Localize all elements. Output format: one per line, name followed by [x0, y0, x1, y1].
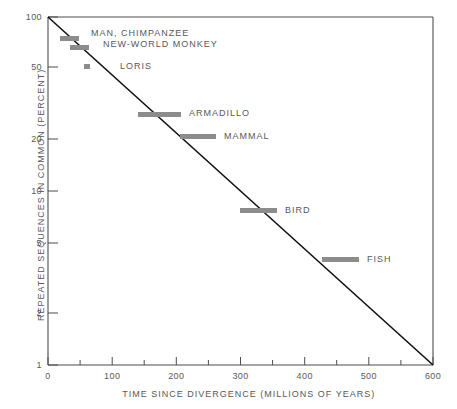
chart-figure: 100 50 20 10 5 2 1 0 100 200 300 400 500… — [0, 0, 457, 409]
y-axis-ticks — [48, 17, 58, 365]
point-label-new-world-monkey: NEW-WORLD MONKEY — [103, 39, 218, 49]
x-axis-ticks — [48, 357, 433, 365]
data-marker-loris — [84, 64, 90, 69]
data-marker-new-world-monkey — [70, 45, 89, 50]
point-label-fish: FISH — [367, 254, 392, 264]
xtick-label-0: 0 — [45, 371, 50, 381]
ytick-label-1: 1 — [14, 360, 42, 370]
trend-line — [48, 17, 433, 365]
plot-canvas — [0, 0, 457, 409]
xtick-label-600: 600 — [425, 371, 441, 381]
xtick-label-400: 400 — [297, 371, 313, 381]
data-marker-bird — [240, 208, 277, 213]
data-marker-mammal — [180, 134, 216, 139]
data-marker-armadillo — [138, 112, 181, 117]
ytick-label-100: 100 — [14, 12, 42, 22]
y-axis-title: REPEATED SEQUENCES IN COMMON (PERCENT) — [36, 71, 46, 321]
xtick-label-200: 200 — [168, 371, 184, 381]
xtick-label-500: 500 — [361, 371, 377, 381]
point-label-armadillo: ARMADILLO — [189, 108, 250, 118]
point-label-mammal: MAMMAL — [224, 131, 270, 141]
data-marker-fish — [322, 257, 359, 262]
point-label-loris: LORIS — [120, 61, 152, 71]
point-label-bird: BIRD — [285, 205, 311, 215]
x-axis-title: TIME SINCE DIVERGENCE (MILLIONS OF YEARS… — [122, 389, 375, 399]
xtick-label-100: 100 — [104, 371, 120, 381]
point-label-man-chimpanzee: MAN, CHIMPANZEE — [91, 28, 189, 38]
xtick-label-300: 300 — [232, 371, 248, 381]
data-marker-man-chimpanzee — [60, 36, 79, 41]
